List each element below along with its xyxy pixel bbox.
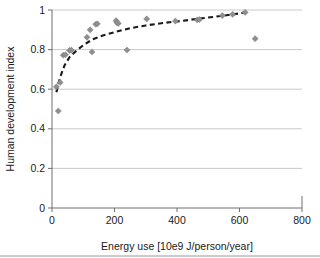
x-axis-title: Energy use [10e9 J/person/year] xyxy=(101,240,253,252)
x-tick-label: 600 xyxy=(231,214,249,226)
y-axis-title: Human development index xyxy=(4,46,16,172)
y-tick-label: 0.4 xyxy=(30,122,45,134)
x-tick-label: 0 xyxy=(49,214,55,226)
y-tick-label: 1 xyxy=(39,4,45,16)
y-tick-label: 0.8 xyxy=(30,43,45,55)
x-tick-label: 400 xyxy=(168,214,186,226)
y-tick-label: 0.2 xyxy=(30,162,45,174)
y-tick-label: 0.6 xyxy=(30,83,45,95)
scatter-chart: 00.20.40.60.81 0200400600800 Energy use … xyxy=(0,0,320,258)
x-tick-label: 200 xyxy=(106,214,124,226)
x-tick-label: 800 xyxy=(293,214,311,226)
figure-container: 00.20.40.60.81 0200400600800 Energy use … xyxy=(0,0,320,258)
y-tick-label: 0 xyxy=(39,202,45,214)
